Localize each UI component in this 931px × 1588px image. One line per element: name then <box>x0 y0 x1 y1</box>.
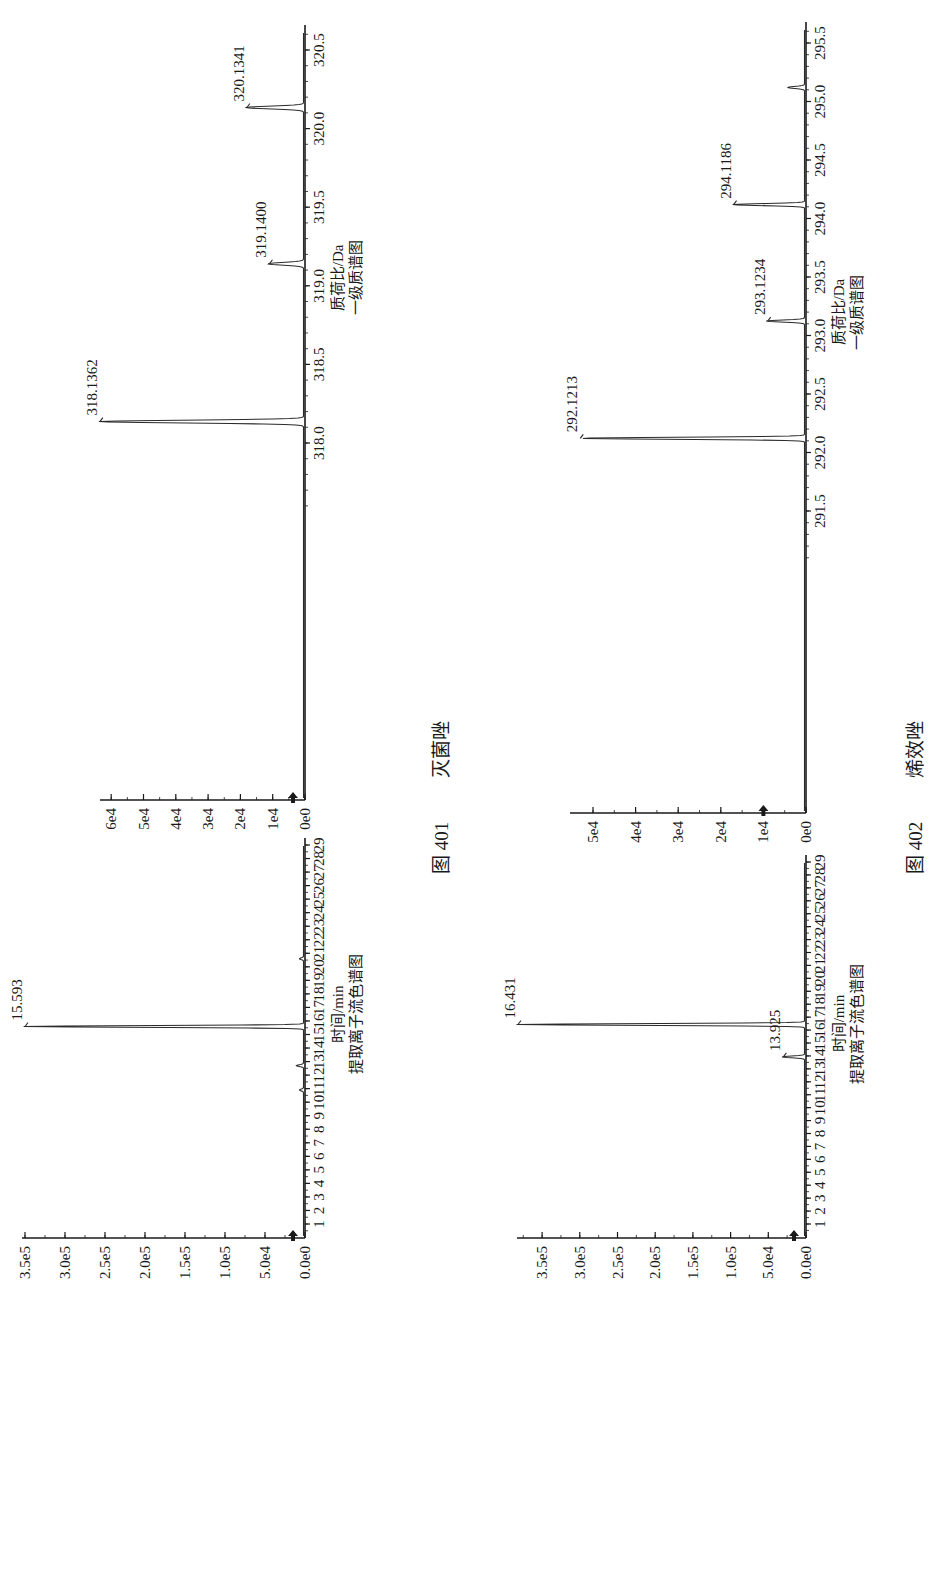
y-tick-label: 3.5e5 <box>17 1246 33 1279</box>
x-tick-label: 291.5 <box>812 494 828 528</box>
y-tick-label: 5e4 <box>136 808 152 830</box>
x-axis-title: 时间/min <box>831 994 847 1052</box>
y-tick-label: 2.5e5 <box>610 1246 626 1279</box>
x-tick-label: 318.5 <box>311 348 327 382</box>
x-tick-label: 5 <box>812 1169 828 1177</box>
x-tick-label: 10 <box>311 1095 327 1110</box>
x-tick-label: 4 <box>812 1181 828 1189</box>
fig401-mass-spectrum: 318.0318.5319.0319.5320.0320.50e01e42e43… <box>84 25 364 830</box>
x-tick-label: 294.5 <box>812 143 828 177</box>
spectrum-trace <box>99 33 304 798</box>
peak-label: 318.1362 <box>84 359 100 415</box>
x-tick-label: 7 <box>311 1139 327 1147</box>
x-tick-label: 6 <box>812 1155 828 1163</box>
x-tick-label: 320.0 <box>311 112 327 146</box>
x-tick-label: 8 <box>812 1130 828 1138</box>
y-tick-label: 4e4 <box>168 808 184 830</box>
y-tick-label: 1.5e5 <box>177 1246 193 1279</box>
threshold-arrow-icon <box>288 792 298 803</box>
fig402-extracted-ion-chromatogram: 1234567891011121314151617181920212223242… <box>502 855 865 1279</box>
peak-label: 16.431 <box>502 977 518 1018</box>
peak-apex-mark <box>580 434 583 438</box>
x-tick-label: 295.5 <box>812 26 828 60</box>
chart-title: 提取离子流色谱图 <box>348 954 364 1074</box>
x-tick-label: 9 <box>311 1112 327 1120</box>
y-tick-label: 0.0e0 <box>798 1246 814 1279</box>
threshold-arrow-icon <box>789 1230 799 1241</box>
peak-label: 293.1234 <box>752 258 768 315</box>
threshold-arrow-icon <box>758 805 768 816</box>
y-tick-label: 3.0e5 <box>57 1246 73 1279</box>
x-tick-label: 293.5 <box>812 260 828 294</box>
x-tick-label: 1 <box>311 1220 327 1228</box>
x-axis-title: 质荷比/Da <box>330 244 346 311</box>
peak-label: 320.1341 <box>231 45 247 101</box>
peak-label: 292.1213 <box>564 376 580 432</box>
x-tick-label: 318.0 <box>311 426 327 460</box>
chart-title: 提取离子流色谱图 <box>849 964 865 1084</box>
x-tick-label: 1 <box>812 1220 828 1228</box>
x-axis-title: 质荷比/Da <box>831 278 847 345</box>
x-tick-label: 8 <box>311 1126 327 1134</box>
x-tick-label: 29 <box>311 838 327 853</box>
y-tick-label: 1.0e5 <box>217 1246 233 1279</box>
y-tick-label: 0.0e0 <box>297 1246 313 1279</box>
x-tick-label: 29 <box>812 855 828 870</box>
peak-label: 294.1186 <box>718 142 734 198</box>
fig402-caption-number: 图 402 <box>905 822 926 874</box>
x-tick-label: 292.5 <box>812 377 828 411</box>
x-tick-label: 9 <box>812 1117 828 1125</box>
fig402-caption: 图 402 烯效唑 <box>905 721 926 874</box>
x-tick-label: 3 <box>311 1193 327 1201</box>
x-tick-label: 4 <box>311 1179 327 1187</box>
y-tick-label: 5e4 <box>585 821 601 843</box>
x-tick-label: 3 <box>812 1194 828 1202</box>
x-tick-label: 293.0 <box>812 319 828 353</box>
y-tick-label: 1e4 <box>755 821 771 843</box>
rotated-figure-page: 1234567891011121314151617181920212223242… <box>0 0 931 1588</box>
x-tick-label: 2 <box>311 1207 327 1215</box>
y-tick-label: 3e4 <box>670 821 686 843</box>
chromatogram-trace <box>517 863 805 1236</box>
y-tick-label: 0e0 <box>297 808 313 830</box>
x-tick-label: 320.5 <box>311 33 327 67</box>
threshold-arrow-icon <box>288 1230 298 1241</box>
peak-label: 13.925 <box>767 1010 783 1051</box>
y-tick-label: 1.5e5 <box>685 1246 701 1279</box>
y-tick-label: 3e4 <box>200 808 216 830</box>
y-tick-label: 3.5e5 <box>534 1246 550 1279</box>
chart-title: 一级质谱图 <box>849 275 865 350</box>
x-tick-label: 319.5 <box>311 190 327 224</box>
y-tick-label: 6e4 <box>103 808 119 830</box>
x-axis-title: 时间/min <box>330 985 346 1043</box>
x-tick-label: 295.0 <box>812 85 828 119</box>
y-tick-label: 2.5e5 <box>97 1246 113 1279</box>
fig401-caption: 图 401 灭菌唑 <box>431 721 452 874</box>
x-tick-label: 294.0 <box>812 202 828 236</box>
x-tick-label: 7 <box>812 1142 828 1150</box>
y-tick-label: 2.0e5 <box>137 1246 153 1279</box>
peak-label: 319.1400 <box>253 202 269 258</box>
spectrum-trace <box>583 30 805 811</box>
y-tick-label: 5.0e4 <box>760 1246 776 1279</box>
fig402-mass-spectrum: 291.5292.0292.5293.0293.5294.0294.5295.0… <box>564 22 865 843</box>
fig401-caption-number: 图 401 <box>431 822 452 874</box>
y-tick-label: 0e0 <box>798 821 814 843</box>
peak-label: 15.593 <box>9 979 25 1020</box>
fig401-extracted-ion-chromatogram: 1234567891011121314151617181920212223242… <box>9 838 364 1279</box>
y-tick-label: 3.0e5 <box>572 1246 588 1279</box>
y-tick-label: 4e4 <box>628 821 644 843</box>
peak-apex-mark <box>518 1020 521 1024</box>
chromatogram-trace <box>24 846 304 1236</box>
y-tick-label: 2.0e5 <box>647 1246 663 1279</box>
x-tick-label: 292.0 <box>812 436 828 470</box>
x-tick-label: 2 <box>812 1207 828 1215</box>
x-tick-label: 5 <box>311 1166 327 1174</box>
x-tick-label: 6 <box>311 1152 327 1160</box>
y-tick-label: 2e4 <box>232 808 248 830</box>
fig401-caption-compound: 灭菌唑 <box>431 721 452 778</box>
y-tick-label: 2e4 <box>713 821 729 843</box>
x-tick-label: 319.0 <box>311 269 327 303</box>
y-tick-label: 5.0e4 <box>257 1246 273 1279</box>
y-tick-label: 1.0e5 <box>723 1246 739 1279</box>
